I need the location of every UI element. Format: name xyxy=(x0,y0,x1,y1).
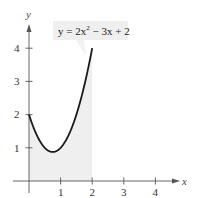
x-tick-label-4: 4 xyxy=(153,186,159,198)
x-tick-label-2: 2 xyxy=(90,186,96,198)
y-tick-label-4: 4 xyxy=(14,42,20,54)
x-tick-label-3: 3 xyxy=(121,186,127,198)
x-axis-label: x xyxy=(181,175,187,187)
y-tick-label-3: 3 xyxy=(14,75,20,87)
function-graph: y = 2x2 − 3x + 2 x y 1 2 3 4 1 2 3 4 xyxy=(0,0,197,198)
equation-label: y = 2x2 − 3x + 2 xyxy=(58,24,130,37)
x-tick-label-1: 1 xyxy=(58,186,64,198)
label-pointer xyxy=(76,40,86,56)
y-tick-label-2: 2 xyxy=(14,108,20,120)
x-axis-arrow-icon xyxy=(172,179,180,184)
y-axis-label: y xyxy=(25,8,31,20)
y-axis-arrow-icon xyxy=(27,24,32,32)
shaded-area-region xyxy=(29,48,92,181)
y-tick-label-1: 1 xyxy=(14,142,20,154)
